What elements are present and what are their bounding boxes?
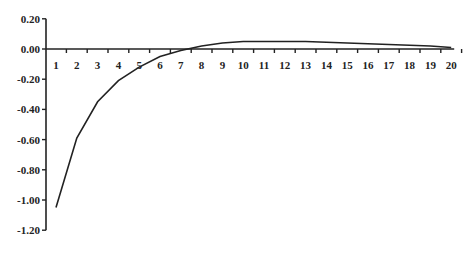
y-tick-label: -0.60 bbox=[17, 134, 40, 146]
x-tick-label: 16 bbox=[363, 59, 375, 71]
x-tick-label: 19 bbox=[425, 59, 437, 71]
x-tick-label: 3 bbox=[95, 59, 101, 71]
y-tick-label: -0.40 bbox=[17, 103, 40, 115]
y-tick-label: -1.00 bbox=[17, 194, 40, 206]
x-tick-label: 9 bbox=[220, 59, 226, 71]
x-tick-label: 2 bbox=[74, 59, 80, 71]
x-tick-label: 7 bbox=[178, 59, 184, 71]
x-tick-label: 10 bbox=[238, 59, 250, 71]
x-axis: 1234567891011121314151617181920 bbox=[46, 49, 462, 71]
y-tick-label: -0.80 bbox=[17, 164, 40, 176]
x-tick-label: 17 bbox=[383, 59, 395, 71]
x-tick-label: 14 bbox=[321, 59, 333, 71]
x-tick-label: 4 bbox=[116, 59, 122, 71]
x-tick-label: 12 bbox=[279, 59, 291, 71]
y-tick-label: 0.00 bbox=[21, 43, 41, 55]
y-tick-label: -1.20 bbox=[17, 224, 40, 236]
x-tick-label: 20 bbox=[446, 59, 458, 71]
line-chart: 0.200.00-0.20-0.40-0.60-0.80-1.00-1.20 1… bbox=[0, 0, 474, 253]
y-tick-label: -0.20 bbox=[17, 73, 40, 85]
y-tick-label: 0.20 bbox=[21, 13, 41, 25]
y-axis: 0.200.00-0.20-0.40-0.60-0.80-1.00-1.20 bbox=[17, 13, 46, 236]
x-tick-label: 15 bbox=[342, 59, 354, 71]
x-tick-label: 1 bbox=[53, 59, 59, 71]
x-tick-label: 6 bbox=[157, 59, 163, 71]
x-tick-label: 8 bbox=[199, 59, 205, 71]
x-tick-label: 18 bbox=[404, 59, 416, 71]
x-tick-label: 11 bbox=[259, 59, 269, 71]
x-tick-label: 13 bbox=[300, 59, 312, 71]
